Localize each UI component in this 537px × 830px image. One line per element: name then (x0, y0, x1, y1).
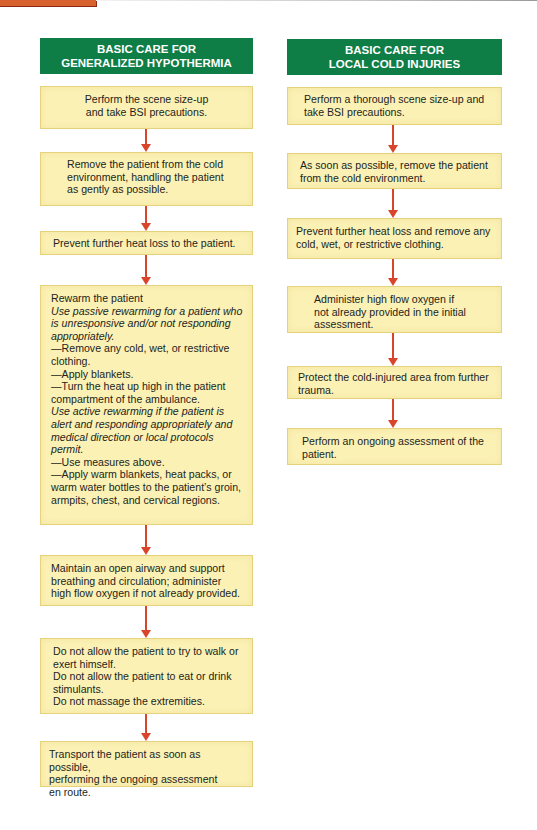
step-text: Do not massage the extremities. (53, 695, 244, 708)
arrow-down-icon (388, 399, 398, 428)
step-text: Protect the cold-injured area from furth… (298, 371, 493, 396)
left-column-title: BASIC CARE FOR GENERALIZED HYPOTHERMIA (40, 38, 253, 74)
right-title-line1: BASIC CARE FOR (287, 43, 502, 57)
step-text: Perform an ongoing assessment of the pat… (302, 435, 487, 460)
passive-item: —Remove any cold, wet, or restrictive cl… (51, 342, 244, 367)
left-step-5-box: Maintain an open airway and support brea… (40, 555, 253, 606)
left-step-1-box: Perform the scene size-up and take BSI p… (40, 86, 253, 129)
step-text: Prevent further heat loss and remove any… (296, 225, 493, 250)
right-step-4-box: Administer high flow oxygen if not alrea… (287, 286, 502, 333)
step-text: Administer high flow oxygen if not alrea… (314, 293, 471, 331)
right-step-1-box: Perform a thorough scene size-up and tak… (287, 87, 502, 125)
active-rewarming-note: Use active rewarming if the patient is a… (51, 405, 244, 455)
left-title-line1: BASIC CARE FOR (40, 42, 253, 56)
step-text: Prevent further heat loss to the patient… (53, 237, 244, 250)
left-step-4-box: Rewarm the patient Use passive rewarming… (40, 285, 253, 525)
step-text: As soon as possible, remove the patient … (300, 159, 489, 184)
left-title-line2: GENERALIZED HYPOTHERMIA (40, 56, 253, 70)
step-text: as gently as possible. (67, 183, 244, 196)
step-text: performing the ongoing assessment (49, 773, 244, 786)
right-step-6-box: Perform an ongoing assessment of the pat… (287, 428, 502, 465)
active-item: —Use measures above. (51, 456, 244, 469)
step-text: Do not allow the patient to try to walk … (53, 645, 244, 670)
arrow-down-icon (141, 606, 151, 638)
passive-rewarming-note: Use passive rewarming for a patient who … (51, 305, 244, 343)
step-text: Do not allow the patient to eat or drink… (53, 670, 244, 695)
arrow-down-icon (141, 714, 151, 741)
page-corner-tab (0, 0, 97, 7)
arrow-down-icon (388, 125, 398, 153)
step-text: en route. (49, 786, 244, 799)
right-step-2-box: As soon as possible, remove the patient … (287, 153, 502, 189)
left-step-3-box: Prevent further heat loss to the patient… (40, 231, 253, 255)
page-top-rule (96, 0, 537, 1)
step-text: Maintain an open airway and support brea… (51, 562, 244, 600)
arrow-down-icon (141, 206, 151, 231)
arrow-down-icon (388, 259, 398, 286)
left-step-2-box: Remove the patient from the cold environ… (40, 152, 253, 206)
step-text: Transport the patient as soon as possibl… (49, 748, 244, 773)
step-text: Perform a thorough scene size-up and tak… (304, 93, 489, 118)
arrow-down-icon (141, 255, 151, 285)
rewarm-heading: Rewarm the patient (51, 292, 244, 305)
step-text: and take BSI precautions. (49, 106, 244, 119)
active-item: —Apply warm blankets, heat packs, or war… (51, 468, 244, 506)
arrow-down-icon (388, 333, 398, 366)
passive-item: —Turn the heat up high in the patient co… (51, 380, 244, 405)
arrow-down-icon (141, 129, 151, 152)
step-text: environment, handling the patient (67, 171, 244, 184)
arrow-down-icon (141, 525, 151, 555)
passive-item: —Apply blankets. (51, 368, 244, 381)
right-title-line2: LOCAL COLD INJURIES (287, 57, 502, 71)
right-column-title: BASIC CARE FOR LOCAL COLD INJURIES (287, 39, 502, 75)
left-step-6-box: Do not allow the patient to try to walk … (40, 638, 253, 714)
arrow-down-icon (388, 189, 398, 218)
step-text: Remove the patient from the cold (67, 158, 244, 171)
right-step-5-box: Protect the cold-injured area from furth… (287, 366, 502, 399)
step-text: Perform the scene size-up (49, 93, 244, 106)
left-step-7-box: Transport the patient as soon as possibl… (40, 741, 253, 787)
right-step-3-box: Prevent further heat loss and remove any… (287, 218, 502, 259)
